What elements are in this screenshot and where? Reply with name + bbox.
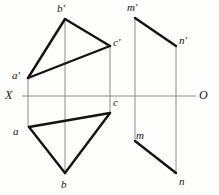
vertex-label-m: m [136, 130, 144, 141]
edge-bprime-cprime [65, 19, 110, 46]
vertex-label-n-prime: n' [179, 35, 187, 46]
vertex-label-m-prime: m' [127, 2, 137, 13]
edge-cprime-aprime [28, 46, 110, 78]
axis-label-o: O [199, 89, 208, 101]
axis-label-x: X [5, 89, 12, 101]
figure-canvas [0, 0, 219, 195]
edge-mprime-nprime [135, 18, 176, 46]
edge-c-a [29, 113, 110, 127]
edge-a-b [29, 127, 65, 173]
projection-figure: a'b'c'abcm'n'mn X O [0, 0, 219, 195]
edge-m-n [135, 141, 176, 173]
vertex-label-b: b [61, 179, 67, 190]
vertex-label-a-prime: a' [12, 70, 20, 81]
vertex-label-b-prime: b' [57, 3, 65, 14]
vertex-label-n: n [179, 176, 185, 187]
vertex-label-c: c [113, 97, 118, 108]
vertex-label-c-prime: c' [113, 37, 120, 48]
vertex-label-a: a [13, 126, 19, 137]
edge-aprime-bprime [28, 19, 65, 78]
edge-b-c [65, 113, 110, 173]
